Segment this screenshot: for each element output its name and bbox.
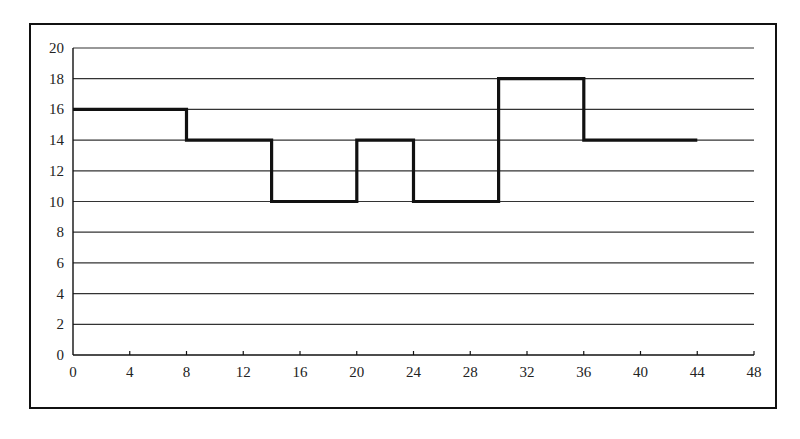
x-tick-label: 12	[236, 364, 251, 380]
x-tick-label: 48	[747, 364, 762, 380]
y-tick-label: 8	[57, 224, 65, 240]
x-tick-label: 16	[293, 364, 309, 380]
y-tick-label: 20	[49, 40, 64, 56]
y-tick-label: 12	[49, 163, 64, 179]
x-tick-label: 32	[520, 364, 535, 380]
x-tick-label: 24	[406, 364, 422, 380]
x-tick-label: 44	[690, 364, 706, 380]
x-tick-label: 0	[69, 364, 77, 380]
x-tick-label: 36	[576, 364, 592, 380]
y-tick-label: 0	[57, 347, 65, 363]
y-tick-label: 2	[57, 316, 65, 332]
x-tick-label: 8	[183, 364, 191, 380]
y-axis-tick-labels: 02468101214161820	[49, 40, 65, 363]
x-tick-label: 20	[349, 364, 364, 380]
y-tick-label: 10	[49, 194, 64, 210]
x-tick-label: 40	[633, 364, 648, 380]
x-axis-tick-labels: 04812162024283236404448	[69, 364, 761, 380]
x-tick-label: 4	[126, 364, 134, 380]
x-tick-label: 28	[463, 364, 478, 380]
y-tick-label: 16	[49, 101, 65, 117]
y-tick-label: 18	[49, 71, 64, 87]
y-tick-label: 4	[57, 286, 65, 302]
y-tick-label: 14	[49, 132, 65, 148]
step-chart: 02468101214161820 0481216202428323640444…	[0, 0, 800, 439]
y-tick-label: 6	[57, 255, 65, 271]
